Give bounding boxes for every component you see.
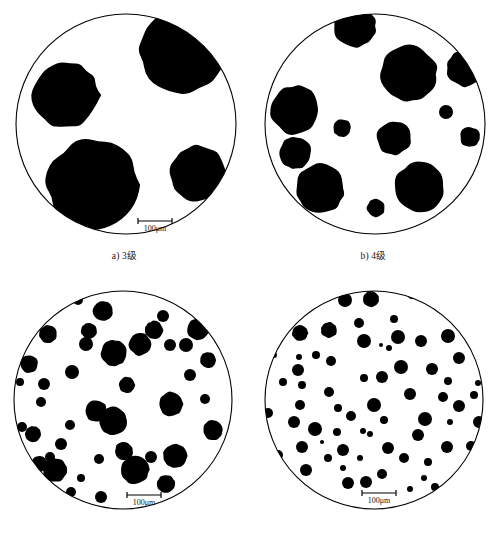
- particle: [395, 162, 444, 213]
- particle: [65, 365, 79, 379]
- particle: [31, 62, 101, 126]
- scalebar-c: 100μm: [127, 492, 161, 507]
- particle: [367, 199, 385, 218]
- particle: [36, 397, 46, 407]
- particle: [380, 416, 388, 424]
- scalebar-label: 100μm: [144, 224, 167, 233]
- particle: [357, 334, 371, 348]
- particle: [263, 408, 273, 418]
- particle: [360, 428, 366, 434]
- particle: [308, 296, 316, 304]
- particle: [377, 122, 411, 156]
- particle-group-c: [16, 295, 223, 503]
- particle: [95, 491, 107, 503]
- particle: [65, 420, 75, 430]
- panel-b-image: 100μm: [249, 0, 498, 276]
- particle: [453, 352, 465, 364]
- particle: [473, 454, 483, 464]
- particle: [94, 454, 104, 464]
- particle: [300, 464, 312, 476]
- particle: [399, 453, 409, 463]
- particle: [324, 387, 334, 397]
- particle: [292, 325, 308, 341]
- particle: [424, 458, 432, 466]
- particle: [163, 444, 187, 468]
- particle: [421, 475, 427, 481]
- particle: [367, 431, 373, 437]
- particle: [139, 6, 225, 94]
- particle: [342, 288, 348, 294]
- particle: [312, 351, 320, 359]
- particle: [391, 330, 405, 344]
- panel-d: 100μm d) 6级: [249, 276, 498, 552]
- particle: [55, 438, 67, 450]
- particle: [321, 322, 337, 338]
- particle: [337, 444, 349, 456]
- particle: [360, 476, 372, 488]
- particle-group-d: [257, 288, 487, 492]
- particle: [200, 394, 210, 404]
- particle: [159, 392, 183, 417]
- particle: [412, 429, 424, 441]
- particle: [326, 356, 336, 366]
- particle: [342, 477, 354, 489]
- particle: [357, 455, 363, 461]
- particle: [379, 343, 383, 347]
- panel-b: 100μm b) 4级: [249, 0, 498, 276]
- particle: [298, 381, 306, 389]
- scalebar-a: 100μm: [138, 218, 172, 233]
- particle: [38, 378, 50, 390]
- particle: [377, 469, 387, 479]
- particle: [93, 301, 113, 321]
- particle-group-b: [270, 4, 484, 217]
- particle: [295, 400, 305, 410]
- particle: [475, 380, 481, 386]
- particle: [407, 486, 413, 492]
- particle: [101, 340, 127, 366]
- particle: [380, 45, 437, 102]
- particle: [333, 428, 341, 436]
- particle: [279, 137, 311, 169]
- particle: [390, 315, 398, 323]
- particle: [354, 318, 364, 328]
- particle: [25, 426, 41, 442]
- particle: [279, 378, 287, 386]
- particle: [77, 474, 85, 482]
- particle: [257, 433, 265, 441]
- panel-a-caption: a) 3级: [0, 250, 249, 262]
- particle: [441, 441, 453, 453]
- particle: [470, 391, 478, 399]
- panel-b-caption: b) 4级: [249, 250, 498, 262]
- particle: [157, 310, 169, 322]
- particle: [453, 400, 465, 412]
- particle: [308, 422, 322, 436]
- particle: [340, 465, 346, 471]
- particle: [382, 442, 394, 454]
- panel-a: 100μm a) 3级: [0, 0, 249, 276]
- particle: [444, 377, 452, 385]
- particle: [73, 295, 83, 305]
- particle: [404, 388, 416, 400]
- particle: [394, 360, 408, 374]
- particle: [334, 4, 376, 48]
- particle: [184, 369, 196, 381]
- particle: [204, 420, 223, 440]
- particle: [170, 145, 227, 202]
- panel-c-image: 100μm: [0, 276, 249, 552]
- particle: [296, 354, 302, 360]
- particle: [334, 404, 342, 412]
- particle: [129, 333, 152, 355]
- particle: [334, 119, 351, 136]
- particle: [438, 392, 448, 402]
- scalebar-label: 100μm: [368, 496, 391, 505]
- particle: [119, 377, 135, 393]
- particle: [164, 339, 176, 351]
- particle: [418, 412, 432, 426]
- particle: [460, 127, 479, 147]
- particle: [292, 364, 304, 376]
- particle: [439, 105, 453, 119]
- particle: [81, 323, 97, 339]
- particle: [447, 49, 484, 87]
- particle: [320, 440, 324, 444]
- particle: [363, 291, 379, 307]
